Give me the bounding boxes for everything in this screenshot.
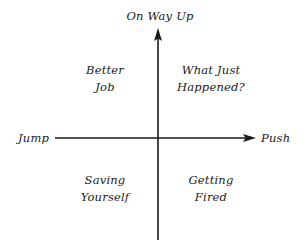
axis-label-left: Jump [18,130,49,147]
axis-label-right: Push [261,130,290,147]
quadrant-label-line: Fired [188,189,233,206]
quadrant-label-bottom-right: Getting Fired [188,172,233,205]
quadrant-label-line: Yourself [81,189,130,206]
quadrant-label-bottom-left: Saving Yourself [81,172,130,205]
quadrant-label-line: Better [86,62,124,79]
quadrant-label-line: What Just [177,62,245,79]
axis-label-top: On Way Up [126,8,193,25]
quadrant-label-line: Job [86,79,124,96]
quadrant-label-line: Happened? [177,79,245,96]
axes-graphic [0,0,306,250]
quadrant-label-line: Getting [188,172,233,189]
quadrant-label-line: Saving [81,172,130,189]
quadrant-label-top-right: What Just Happened? [177,62,245,95]
quadrant-diagram: On Way Up Jump Push Better Job What Just… [0,0,306,250]
quadrant-label-top-left: Better Job [86,62,124,95]
